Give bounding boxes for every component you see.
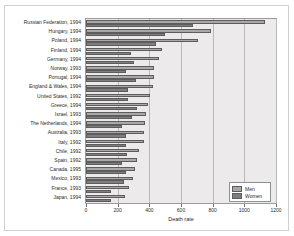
legend-item-men: Men — [232, 185, 268, 192]
y-axis-label: Poland, 1994 — [52, 36, 81, 45]
x-tick-label: 0 — [85, 207, 88, 213]
bar-group — [86, 19, 276, 28]
legend-label-women: Women — [245, 193, 262, 199]
gridline — [276, 19, 277, 203]
y-axis-label: Hungary, 1994 — [49, 27, 81, 36]
bar-women — [86, 52, 131, 55]
bar-group — [86, 129, 276, 138]
y-axis-label: Spain, 1992 — [54, 156, 81, 165]
x-tick-label: 200 — [113, 207, 121, 213]
bar-group — [86, 111, 276, 120]
bar-group — [86, 37, 276, 46]
y-axis-label: Portugal, 1994 — [48, 73, 81, 82]
y-axis-label: Japan, 1994 — [53, 193, 81, 202]
bar-women — [86, 153, 127, 156]
y-axis-label: Finland, 1994 — [51, 46, 81, 55]
bar-group — [86, 83, 276, 92]
y-axis-label: Australia, 1993 — [48, 128, 81, 137]
y-axis-label: Italy, 1992 — [58, 138, 81, 147]
legend-swatch-men-icon — [232, 186, 242, 192]
chart-legend: Men Women — [229, 182, 271, 202]
bar-women — [86, 134, 126, 137]
bar-group — [86, 148, 276, 157]
y-axis-label: Canada, 1995 — [50, 165, 81, 174]
legend-swatch-women-icon — [232, 193, 242, 199]
bar-women — [86, 162, 122, 165]
bar-women — [86, 70, 126, 73]
bar-women — [86, 116, 132, 119]
x-axis-ticks: 020040060080010001200 — [85, 204, 277, 214]
bar-group — [86, 65, 276, 74]
y-axis-label: Chile, 1992 — [56, 147, 81, 156]
bar-women — [86, 79, 136, 82]
x-tick-label: 800 — [208, 207, 216, 213]
bar-group — [86, 102, 276, 111]
bar-group — [86, 93, 276, 102]
bar-group — [86, 56, 276, 65]
bar-group — [86, 157, 276, 166]
bar-women — [86, 190, 111, 193]
bar-group — [86, 47, 276, 56]
x-tick-label: 1000 — [239, 207, 250, 213]
y-axis-label: England & Wales, 1994 — [29, 82, 81, 91]
x-tick-label: 400 — [145, 207, 153, 213]
y-axis-label: Russian Federation, 1994 — [24, 18, 81, 27]
bar-women — [86, 171, 126, 174]
figure-frame: Russian Federation, 1994Hungary, 1994Pol… — [4, 5, 289, 231]
bar-women — [86, 88, 128, 91]
x-tick-label: 1200 — [270, 207, 281, 213]
y-axis-category-labels: Russian Federation, 1994Hungary, 1994Pol… — [5, 18, 83, 204]
chart-figure: Russian Federation, 1994Hungary, 1994Pol… — [0, 0, 294, 236]
bar-group — [86, 166, 276, 175]
bar-women — [86, 107, 137, 110]
bar-women — [86, 199, 111, 202]
y-axis-label: Germany, 1994 — [47, 55, 81, 64]
plot-area — [85, 18, 277, 204]
bar-group — [86, 28, 276, 37]
y-axis-label: Norway, 1993 — [51, 64, 81, 73]
y-axis-label: Greece, 1994 — [51, 101, 81, 110]
y-axis-label: United States, 1992 — [37, 92, 81, 101]
bar-rows — [86, 19, 276, 203]
bar-women — [86, 24, 193, 27]
bar-group — [86, 120, 276, 129]
bar-women — [86, 33, 165, 36]
y-axis-label: The Netherlands, 1994 — [30, 119, 81, 128]
bar-group — [86, 74, 276, 83]
bar-women — [86, 144, 126, 147]
x-tick-label: 600 — [177, 207, 185, 213]
y-axis-label: Mexico, 1993 — [51, 174, 81, 183]
legend-label-men: Men — [245, 186, 255, 192]
x-axis-title: Death rate — [85, 216, 277, 222]
bar-women — [86, 61, 134, 64]
bar-women — [86, 180, 124, 183]
legend-item-women: Women — [232, 192, 268, 199]
y-axis-label: Israel, 1993 — [55, 110, 81, 119]
y-axis-label: France, 1993 — [52, 184, 81, 193]
bar-women — [86, 42, 156, 45]
bar-group — [86, 139, 276, 148]
bar-women — [86, 125, 122, 128]
bar-women — [86, 98, 128, 101]
